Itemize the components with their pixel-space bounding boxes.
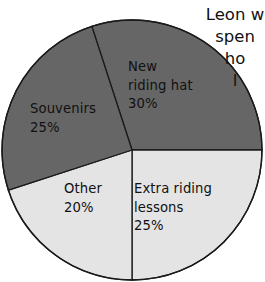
slice-label-value: 30% xyxy=(128,95,193,114)
slice-label-value: 25% xyxy=(30,119,96,138)
slice-label-extra-riding-lessons: Extra riding lessons 25% xyxy=(134,180,212,236)
caption-line: spen xyxy=(150,26,265,48)
slice-label-line: Other xyxy=(64,180,102,199)
slice-label-value: 20% xyxy=(64,199,102,218)
caption-line: ho xyxy=(150,48,265,70)
slice-label-souvenirs: Souvenirs 25% xyxy=(30,100,96,137)
slice-label-other: Other 20% xyxy=(64,180,102,217)
caption-line: Leon w xyxy=(150,4,265,26)
slice-label-line: Extra riding xyxy=(134,180,212,199)
slice-label-value: 25% xyxy=(134,217,212,236)
pie-chart-screenshot: New riding hat 30% Souvenirs 25% Other 2… xyxy=(0,0,265,282)
slice-label-line: lessons xyxy=(134,199,212,218)
chart-caption: Leon w spen ho l xyxy=(150,4,265,92)
slice-label-line: Souvenirs xyxy=(30,100,96,119)
caption-line: l xyxy=(150,70,265,92)
